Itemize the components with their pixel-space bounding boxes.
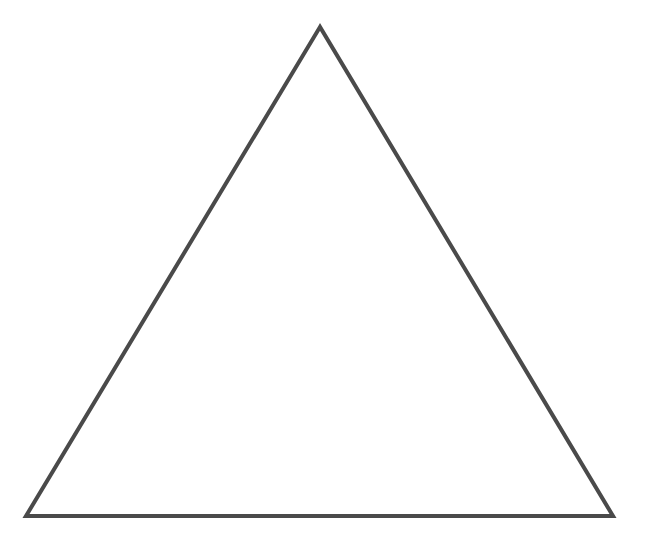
background (0, 0, 647, 547)
diagram-canvas (0, 0, 647, 547)
